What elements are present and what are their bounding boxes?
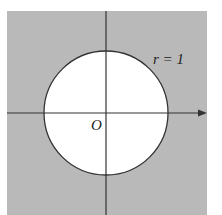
origin-label: O bbox=[91, 117, 102, 133]
radius-label: r = 1 bbox=[153, 51, 184, 67]
circle-diagram: r = 1 O bbox=[0, 0, 222, 215]
